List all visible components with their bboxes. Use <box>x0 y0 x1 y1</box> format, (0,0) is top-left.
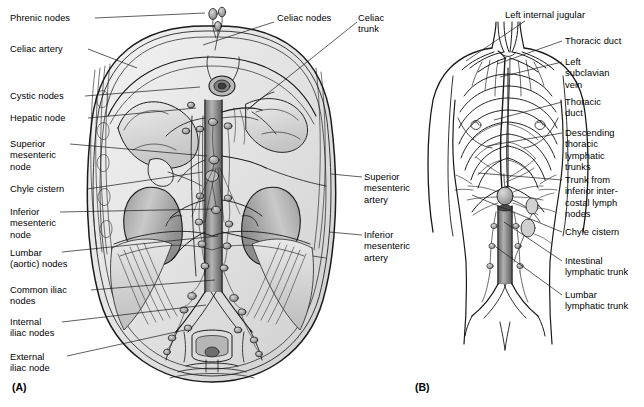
panel-b-caption: (B) <box>415 381 430 393</box>
common-iliac-right-b <box>512 284 538 316</box>
panel-b: (B) Left internal jugularThoracic ductLe… <box>420 0 644 407</box>
label-cystic-nodes: Cystic nodes <box>10 91 64 102</box>
label-lumbar-aortic-nodes: Lumbar (aortic) nodes <box>10 248 68 271</box>
neck-right <box>520 22 524 48</box>
label-intestinal-lymphatic-trunk: Intestinal lymphatic trunk <box>565 256 628 279</box>
label-internal-iliac-nodes: Internal iliac nodes <box>10 317 54 340</box>
clavicle-left <box>462 52 494 70</box>
clavicle-right <box>522 52 554 70</box>
label-inferior-mesenteric-node: Inferior mesenteric node <box>10 207 56 241</box>
label-chyle-cistern-b: Chyle cistern <box>565 227 619 238</box>
label-inferior-mesenteric-artery: Inferior mesenteric artery <box>364 230 410 264</box>
shoulder-arm-left <box>428 48 492 232</box>
chyle-cistern-graphic <box>497 174 513 205</box>
inner-arm-left <box>448 76 453 236</box>
label-superior-mesenteric-artery: Superior mesenteric artery <box>364 172 410 206</box>
label-chyle-cistern: Chyle cistern <box>10 184 64 195</box>
panel-a-illustration <box>0 0 420 407</box>
great-veins <box>470 22 546 72</box>
label-common-iliac-nodes: Common iliac nodes <box>10 285 67 308</box>
torso-side-left <box>453 100 467 344</box>
common-iliac-left-b <box>472 284 498 316</box>
pectoral-curve-left <box>458 118 492 148</box>
label-thoracic-duct-upper: Thoracic duct <box>565 36 621 47</box>
neck-left <box>492 22 496 48</box>
label-external-iliac-node: External iliac node <box>10 352 50 375</box>
label-left-internal-jugular: Left internal jugular <box>505 10 585 21</box>
label-hepatic-node: Hepatic node <box>10 113 65 124</box>
label-celiac-artery: Celiac artery <box>10 44 63 55</box>
label-left-subclavian-vein: Left subclavian vein <box>565 57 609 91</box>
torso-side-right <box>550 100 564 344</box>
anatomy-figure: (A) Phrenic nodesCeliac arteryCystic nod… <box>0 0 644 407</box>
label-phrenic-nodes: Phrenic nodes <box>10 13 70 24</box>
label-trunk-inferior-intercostal: Trunk from inferior inter- costal lymph … <box>565 175 618 221</box>
label-thoracic-duct-lower: Thoracic duct <box>565 97 601 120</box>
panel-a: (A) Phrenic nodesCeliac arteryCystic nod… <box>0 0 420 407</box>
label-celiac-trunk: Celiac trunk <box>358 13 384 36</box>
label-lumbar-lymphatic-trunk: Lumbar lymphatic trunk <box>565 290 628 313</box>
descending-thoracic-lymphatic-trunks-graphic <box>472 124 538 175</box>
panel-a-caption: (A) <box>12 381 27 393</box>
label-descending-thoracic-lymphatic-trunks: Descending thoracic lymphatic trunks <box>565 128 615 174</box>
label-celiac-nodes: Celiac nodes <box>277 13 331 24</box>
label-superior-mesenteric-node: Superior mesenteric node <box>10 139 56 173</box>
